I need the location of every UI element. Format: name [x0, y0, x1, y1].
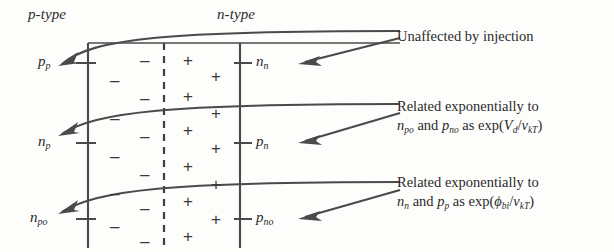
axis-label-np: np — [38, 133, 51, 150]
negative-sign: – — [140, 200, 149, 217]
leader-line-related-phibi — [305, 190, 400, 217]
semiconductor-junction-figure: p-type n-type – – – – — [0, 0, 614, 252]
positive-sign: + — [183, 88, 193, 105]
negative-sign: – — [110, 185, 119, 202]
positive-sign: + — [183, 158, 193, 175]
leader-arrowhead-related-vd — [298, 135, 322, 145]
annotation-related-vd-line-2: npo and pno as exp(Vd/vkT) — [397, 116, 542, 137]
leader-arrowhead-related-phibi — [298, 211, 322, 221]
axis-label-npo: npo — [30, 209, 48, 226]
annotation-unaffected-line-1: Unaffected by injection — [397, 27, 534, 46]
positive-sign: + — [211, 68, 221, 85]
annotation-related-phibi-line-1: Related exponentially to — [397, 173, 539, 192]
annotation-related-vd: Related exponentially to npo and pno as … — [397, 97, 542, 137]
curve-middle-arrowhead — [58, 122, 80, 136]
positive-sign: + — [183, 122, 193, 139]
positive-sign: + — [183, 193, 193, 210]
positive-sign: + — [183, 52, 193, 69]
negative-sign: – — [140, 233, 149, 250]
negative-sign: – — [110, 148, 119, 165]
positive-sign: + — [211, 176, 221, 193]
negative-sign: – — [110, 218, 119, 235]
annotation-unaffected: Unaffected by injection — [397, 27, 534, 46]
annotation-related-phibi: Related exponentially to nn and pp as ex… — [397, 173, 539, 213]
annotation-related-phibi-line-2: nn and pp as exp(ϕbi/vkT) — [397, 192, 539, 213]
negative-sign: – — [140, 52, 149, 69]
positive-sign: + — [211, 105, 221, 122]
axis-label-pno: pno — [256, 209, 274, 226]
leader-line-related-vd — [305, 113, 400, 141]
curve-bottom-arrowhead — [58, 200, 80, 214]
axis-label-pp: pp — [38, 53, 51, 70]
leader-arrowhead-unaffected — [298, 56, 322, 66]
negative-sign: – — [140, 128, 149, 145]
negative-sign: – — [110, 110, 119, 127]
axis-label-pn: pn — [256, 133, 269, 150]
annotation-related-vd-line-1: Related exponentially to — [397, 97, 542, 116]
axis-label-nn: nn — [256, 53, 269, 70]
leader-line-unaffected — [305, 38, 400, 62]
positive-sign: + — [211, 140, 221, 157]
negative-sign: – — [140, 166, 149, 183]
negative-sign: – — [110, 72, 119, 89]
negative-sign: – — [140, 90, 149, 107]
positive-sign: + — [211, 211, 221, 228]
positive-sign: + — [183, 228, 193, 245]
